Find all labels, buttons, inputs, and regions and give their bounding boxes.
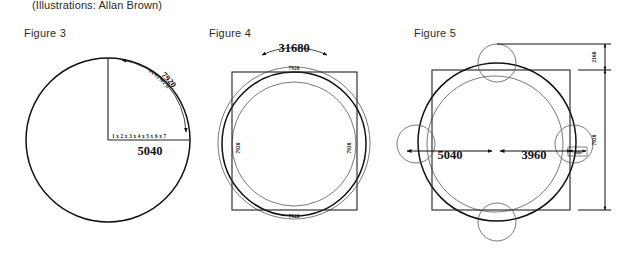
figure-4-bold-circle (222, 72, 366, 216)
figure-4-side-left-label: 7920 (235, 142, 241, 153)
figure-5-small-circle-left (397, 125, 435, 163)
illustration-page: (Illustrations: Allan Brown) Figure 3 Fi… (0, 0, 633, 258)
figure-4-inner-circle (232, 82, 356, 206)
figure-4-side-top-label: 7920 (288, 65, 299, 71)
figure-5-drawing: 5040 3960 1080 2160 7920 (397, 44, 611, 241)
figure-4-square (232, 72, 357, 210)
figure-5-dim-vertical-top-label: 2160 (591, 51, 597, 62)
figure-4-side-bottom-label: 7920 (288, 213, 299, 219)
figure-3-radius-label: 5040 (138, 144, 163, 158)
figure-4-drawing: 31680 7920 7920 7920 7920 (218, 41, 370, 219)
figure-5-dim-vertical-main-label: 7920 (591, 134, 597, 145)
figure-5-inner-circle (427, 76, 563, 212)
figure-5-dim-left-label: 5040 (438, 148, 463, 162)
figure-4-circumference-label: 31680 (278, 41, 309, 55)
figures-canvas: 7920 8 x 9 x 10 x 11 1 x 2 x 3 x 4 x 5 x… (0, 0, 633, 258)
figure-4-side-right-label: 7920 (346, 142, 352, 153)
figure-5-dim-right-label: 3960 (522, 148, 547, 162)
figure-5-outer-circle (418, 63, 576, 221)
figure-3-drawing: 7920 8 x 9 x 10 x 11 1 x 2 x 3 x 4 x 5 x… (26, 58, 190, 222)
figure-3-radius-factors: 1 x 2 x 3 x 4 x 5 x 6 x 7 (112, 133, 166, 139)
figure-5-small-circle-bottom (478, 203, 516, 241)
figure-5-dim-small-label: 1080 (573, 150, 581, 155)
